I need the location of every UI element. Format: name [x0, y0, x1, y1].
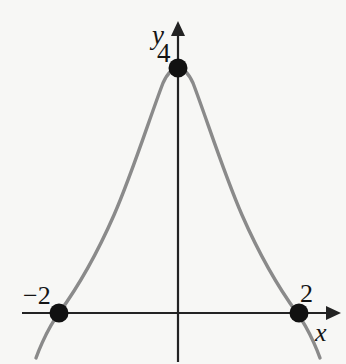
right-root-label: 2	[300, 281, 313, 307]
x-axis-arrowhead	[326, 306, 341, 320]
y-intercept-label: 4	[157, 40, 171, 67]
left-root-point	[50, 304, 69, 323]
vertex-point	[169, 59, 188, 78]
y-axis-arrowhead	[171, 21, 185, 36]
left-root-label: −2	[23, 283, 51, 309]
parabola-figure: y 4 −2 2 x	[0, 0, 346, 364]
x-axis-label: x	[315, 320, 327, 346]
parabola-plot	[0, 0, 346, 364]
